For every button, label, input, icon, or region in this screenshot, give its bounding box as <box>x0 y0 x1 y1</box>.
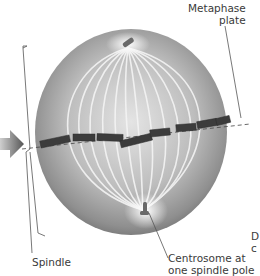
centrosome-label-line2: one spindle pole <box>168 264 254 276</box>
cutoff-label-line2: c <box>251 242 257 254</box>
metaphase-plate-label: Metaphase <box>188 2 246 14</box>
metaphase-cell-diagram <box>0 0 260 276</box>
bottom-centrosome <box>124 193 168 229</box>
top-centrosome <box>106 32 150 56</box>
metaphase-plate-label-line2: plate <box>219 14 246 26</box>
centrosome-label: Centrosome at <box>168 252 246 264</box>
spindle-label: Spindle <box>32 256 71 268</box>
right-arrow-icon <box>0 130 24 158</box>
cutoff-label-line1: D <box>251 230 259 242</box>
